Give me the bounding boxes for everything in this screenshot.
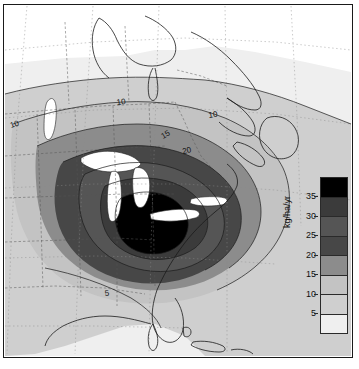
legend-axis-title: kg/ha/yr (282, 196, 292, 228)
legend-swatch-15-20 (321, 256, 347, 276)
legend-swatch-20-25 (321, 237, 347, 257)
legend-swatch-lt5 (321, 315, 347, 334)
contour-label-10a: 10 (116, 97, 127, 107)
legend-swatch-5-10 (321, 295, 347, 315)
legend-tick-labels: 35 30 25 20 15 10 5 (294, 170, 318, 342)
legend-tickmark-30 (314, 216, 318, 217)
legend-tickmark-35 (314, 196, 318, 197)
legend-tickmark-15 (314, 274, 318, 275)
legend-tickmark-5 (314, 313, 318, 314)
legend-tickmark-10 (314, 294, 318, 295)
legend-swatch-25-30 (321, 217, 347, 237)
legend-swatch-gt35 (321, 178, 347, 198)
legend-tickmark-25 (314, 235, 318, 236)
legend-swatch-30-35 (321, 198, 347, 218)
legend-tickmark-20 (314, 255, 318, 256)
lake-michigan (107, 171, 121, 221)
lake-ontario (190, 197, 227, 206)
legend-swatch-10-15 (321, 276, 347, 296)
figure-container: 10 10 10 15 20 5 35 30 25 20 15 10 5 (0, 0, 359, 369)
legend-colorbar (320, 177, 348, 334)
